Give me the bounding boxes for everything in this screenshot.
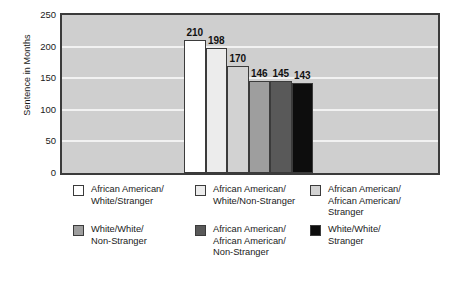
legend-label-3: White/White/ Non-Stranger — [91, 224, 147, 247]
y-axis-tick-50: 50 — [24, 136, 56, 146]
y-axis-tick-100: 100 — [24, 105, 56, 115]
legend-label-0: African American/ White/Stranger — [91, 184, 164, 207]
legend-item-3[interactable]: White/White/ Non-Stranger — [73, 224, 191, 247]
plot-area — [60, 13, 440, 175]
legend: African American/ White/StrangerAfrican … — [60, 184, 450, 284]
bar-0 — [184, 40, 206, 173]
legend-label-1: African American/ White/Non-Stranger — [213, 184, 295, 207]
legend-item-1[interactable]: African American/ White/Non-Stranger — [195, 184, 313, 207]
legend-label-2: African American/ African American/ Stra… — [328, 184, 401, 219]
bar-label-1: 198 — [204, 36, 230, 46]
y-axis-tick-labels: 250200150100500 — [22, 0, 56, 290]
bar-label-5: 143 — [290, 71, 316, 81]
legend-item-2[interactable]: African American/ African American/ Stra… — [310, 184, 428, 219]
bar-4 — [270, 81, 292, 173]
legend-label-4: African American/ African American/ Non-… — [213, 224, 286, 259]
legend-item-5[interactable]: White/White/ Stranger — [310, 224, 428, 247]
legend-item-0[interactable]: African American/ White/Stranger — [73, 184, 191, 207]
bar-2 — [227, 66, 249, 173]
y-axis-tick-150: 150 — [24, 73, 56, 83]
plot-inner — [62, 15, 438, 173]
bar-series — [62, 15, 438, 173]
legend-swatch-icon-1 — [195, 185, 206, 196]
y-axis-tick-200: 200 — [24, 42, 56, 52]
legend-swatch-icon-5 — [310, 225, 321, 236]
legend-item-4[interactable]: African American/ African American/ Non-… — [195, 224, 313, 259]
legend-swatch-icon-4 — [195, 225, 206, 236]
legend-swatch-icon-0 — [73, 185, 84, 196]
y-axis-tick-250: 250 — [24, 10, 56, 20]
y-axis-tick-0: 0 — [24, 168, 56, 178]
bar-1 — [206, 48, 228, 173]
legend-label-5: White/White/ Stranger — [328, 224, 381, 247]
chart-figure: Sentence in Months 250200150100500 21019… — [0, 0, 458, 290]
bar-5 — [292, 83, 314, 173]
legend-swatch-icon-3 — [73, 225, 84, 236]
bar-label-2: 170 — [225, 54, 251, 64]
bar-3 — [249, 81, 271, 173]
legend-swatch-icon-2 — [310, 185, 321, 196]
